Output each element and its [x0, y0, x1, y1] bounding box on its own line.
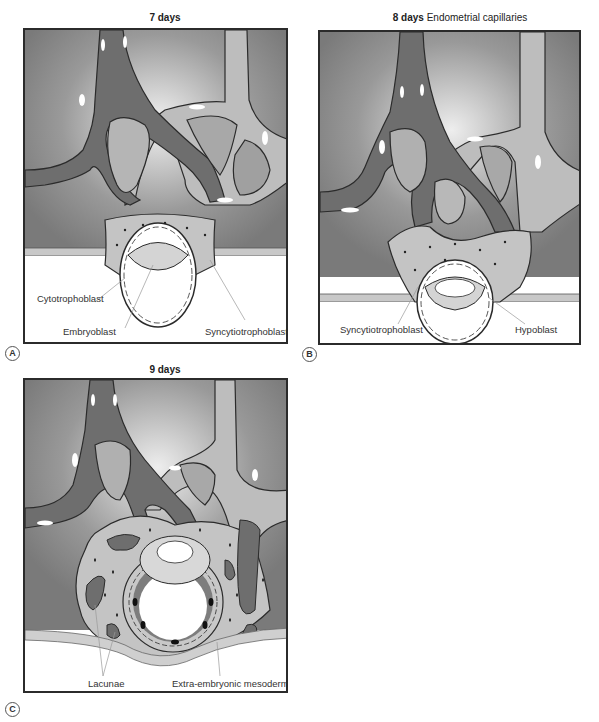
- label-embryoblast: Embryoblast: [63, 326, 116, 337]
- panel-b-illustration: [320, 32, 581, 345]
- label-hypoblast: Hypoblast: [515, 324, 557, 335]
- panel-a-title-bold: 7 days: [149, 12, 180, 23]
- label-extra-embryonic-mesoderm: Extra-embryonic mesoderm: [172, 678, 288, 689]
- panel-c-illustration: [25, 380, 288, 693]
- label-cytotrophoblast: Cytotrophoblast: [37, 293, 104, 304]
- panel-a-title: 7 days: [120, 12, 210, 23]
- panel-c-letter: C: [5, 702, 20, 717]
- panel-c-title-bold: 9 days: [149, 364, 180, 375]
- panel-b-title-bold: 8 days: [393, 12, 424, 23]
- panel-b-diagram: Syncytiotrophoblast Hypoblast: [318, 30, 581, 345]
- label-lacunae: Lacunae: [88, 678, 124, 689]
- label-syncytiotrophoblast-b: Syncytiotrophoblast: [340, 324, 423, 335]
- panel-b-title: 8 days Endometrial capillaries: [370, 12, 550, 23]
- panel-b-letter: B: [302, 347, 317, 362]
- panel-a-letter: A: [5, 346, 20, 361]
- panel-b-title-rest: Endometrial capillaries: [427, 12, 528, 23]
- panel-c-title: 9 days: [120, 364, 210, 375]
- panel-c-diagram: Lacunae Extra-embryonic mesoderm: [23, 378, 288, 693]
- label-syncytiotrophoblast: Syncytiotrophoblast: [205, 326, 288, 337]
- panel-a-diagram: Cytotrophoblast Embryoblast Syncytiotrop…: [23, 28, 288, 344]
